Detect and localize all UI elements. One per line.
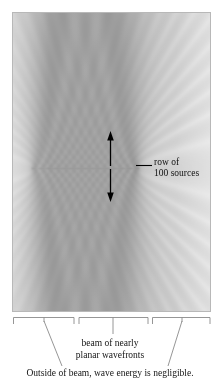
beam-caption: beam of nearly planar wavefronts (0, 338, 220, 361)
row-label-line-1: row of (154, 157, 199, 168)
outside-beam-caption: Outside of beam, wave energy is negligib… (0, 368, 220, 380)
beam-caption-line-2: planar wavefronts (0, 350, 220, 362)
beam-caption-line-1: beam of nearly (0, 338, 220, 350)
figure-root: row of 100 sources beam of nearly planar… (0, 0, 220, 384)
row-label-line-2: 100 sources (154, 168, 199, 179)
row-of-sources-label: row of 100 sources (154, 157, 199, 179)
brace-middle-beam (79, 318, 148, 335)
brace-right-outside (153, 318, 211, 325)
brace-left-outside (14, 318, 75, 325)
